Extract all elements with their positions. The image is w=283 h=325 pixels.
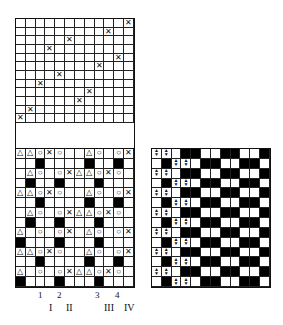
grid-cell bbox=[45, 88, 55, 97]
grid-cell bbox=[95, 97, 105, 106]
grid-cell bbox=[231, 218, 241, 228]
grid-cell bbox=[124, 198, 134, 208]
grid-cell bbox=[45, 277, 55, 287]
grid-cell bbox=[221, 179, 231, 189]
grid-cell bbox=[104, 179, 114, 189]
grid-cell bbox=[36, 277, 46, 287]
filled-cell bbox=[85, 257, 95, 267]
grid-cell bbox=[124, 62, 134, 71]
fabric-simulation-grid: ▲▼▲▼▲▼▲▼▲▼▲▼▲▼▲▼▲▼▲▼▲▼▲▼▲▼▲▼▲▼▲▼▲▼▲▼▲▼▲▼… bbox=[151, 148, 271, 288]
grid-cell bbox=[36, 36, 46, 45]
cross-mark-icon: ✕ bbox=[65, 228, 75, 238]
grid-cell bbox=[55, 257, 65, 267]
grid-cell bbox=[95, 198, 105, 208]
grid-cell bbox=[152, 238, 162, 248]
filled-cell bbox=[26, 179, 36, 189]
grid-cell bbox=[85, 71, 95, 80]
triangle-icon: △ bbox=[16, 248, 26, 258]
filled-cell bbox=[240, 218, 250, 228]
grid-cell bbox=[16, 62, 26, 71]
triangle-icon: △ bbox=[16, 228, 26, 238]
grid-cell bbox=[124, 28, 134, 37]
circle-icon: ○ bbox=[114, 248, 124, 258]
filled-cell bbox=[211, 159, 221, 169]
filled-cell bbox=[181, 149, 191, 159]
grid-cell bbox=[240, 228, 250, 238]
grid-cell bbox=[152, 198, 162, 208]
filled-cell bbox=[191, 248, 201, 258]
grid-cell bbox=[152, 179, 162, 189]
grid-cell bbox=[16, 208, 26, 218]
column-number-1: 1 bbox=[38, 290, 43, 300]
cross-mark-icon: ✕ bbox=[45, 248, 55, 258]
grid-cell bbox=[65, 54, 75, 63]
grid-cell bbox=[75, 238, 85, 248]
circle-icon: ○ bbox=[95, 267, 105, 277]
grid-cell bbox=[104, 45, 114, 54]
grid-cell bbox=[85, 179, 95, 189]
cross-mark-icon: ✕ bbox=[104, 169, 114, 179]
grid-cell bbox=[16, 218, 26, 228]
cross-mark-icon: ✕ bbox=[75, 97, 85, 106]
triangle-icon: △ bbox=[16, 149, 26, 159]
grid-cell bbox=[65, 257, 75, 267]
grid-cell bbox=[95, 88, 105, 97]
filled-cell bbox=[162, 257, 172, 267]
grid-cell bbox=[104, 238, 114, 248]
grid-cell bbox=[65, 179, 75, 189]
grid-cell bbox=[45, 179, 55, 189]
grid-cell bbox=[240, 248, 250, 258]
grid-cell bbox=[16, 71, 26, 80]
filled-cell bbox=[240, 277, 250, 287]
grid-cell bbox=[104, 218, 114, 228]
filled-cell bbox=[181, 208, 191, 218]
filled-cell bbox=[201, 277, 211, 287]
grid-cell bbox=[104, 228, 114, 238]
grid-cell bbox=[104, 97, 114, 106]
grid-cell bbox=[75, 106, 85, 115]
grid-cell bbox=[250, 248, 260, 258]
filled-cell bbox=[191, 149, 201, 159]
grid-cell bbox=[240, 267, 250, 277]
grid-cell bbox=[211, 188, 221, 198]
triangle-icon: △ bbox=[85, 188, 95, 198]
grid-cell bbox=[104, 159, 114, 169]
filled-cell bbox=[162, 198, 172, 208]
grid-cell bbox=[45, 106, 55, 115]
grid-cell bbox=[75, 179, 85, 189]
grid-cell bbox=[124, 267, 134, 277]
grid-cell bbox=[36, 54, 46, 63]
grid-cell bbox=[260, 198, 270, 208]
filled-cell bbox=[240, 159, 250, 169]
grid-cell bbox=[95, 106, 105, 115]
filled-cell bbox=[201, 198, 211, 208]
triangle-icon: △ bbox=[85, 228, 95, 238]
grid-cell bbox=[240, 208, 250, 218]
filled-cell bbox=[221, 169, 231, 179]
up-down-arrow-icon: ▲▼ bbox=[152, 228, 162, 238]
grid-cell bbox=[260, 218, 270, 228]
grid-cell bbox=[36, 97, 46, 106]
grid-cell bbox=[55, 80, 65, 89]
grid-cell bbox=[152, 277, 162, 287]
grid-cell bbox=[104, 88, 114, 97]
grid-cell bbox=[95, 36, 105, 45]
grid-cell bbox=[85, 80, 95, 89]
grid-cell bbox=[221, 238, 231, 248]
filled-cell bbox=[211, 198, 221, 208]
grid-cell bbox=[172, 248, 182, 258]
grid-cell bbox=[55, 97, 65, 106]
circle-icon: ○ bbox=[114, 208, 124, 218]
grid-cell bbox=[172, 228, 182, 238]
circle-icon: ○ bbox=[55, 228, 65, 238]
grid-cell bbox=[85, 277, 95, 287]
filled-cell bbox=[250, 277, 260, 287]
grid-cell bbox=[65, 88, 75, 97]
grid-cell bbox=[45, 228, 55, 238]
grid-cell bbox=[114, 238, 124, 248]
triangle-icon: △ bbox=[26, 248, 36, 258]
cross-mark-icon: ✕ bbox=[65, 208, 75, 218]
grid-cell bbox=[172, 208, 182, 218]
filled-cell bbox=[250, 218, 260, 228]
grid-cell bbox=[65, 114, 75, 123]
